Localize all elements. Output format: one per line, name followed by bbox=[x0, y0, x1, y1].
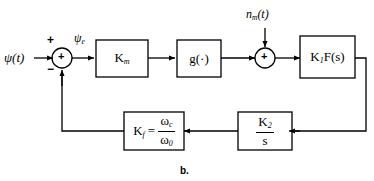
error-summer-interior-sign: + bbox=[58, 51, 64, 62]
error-signal-label: ψe bbox=[74, 32, 85, 46]
block-kf-label: Kf = ωc ω0 bbox=[124, 112, 184, 150]
block-diagram-figure: ψ(t) ψe + − + + nm(t) Km g(·) K1F(s) K2 … bbox=[0, 0, 374, 181]
block-km-label: Km bbox=[96, 40, 148, 77]
block-g-label: g(·) bbox=[177, 40, 221, 77]
diagram-lines-layer bbox=[0, 0, 374, 181]
block-k2s-label: K2 s bbox=[238, 112, 292, 150]
wire-kf-to-summer-path bbox=[62, 76, 124, 131]
summer-minus-sign: − bbox=[47, 63, 54, 75]
noise-signal-label: nm(t) bbox=[246, 8, 269, 22]
summer-plus-sign: + bbox=[47, 34, 54, 46]
input-signal-label: ψ(t) bbox=[4, 51, 24, 64]
figure-caption: b. bbox=[180, 166, 189, 176]
block-k1fs-label: K1F(s) bbox=[300, 36, 355, 78]
noise-summer-interior-sign: + bbox=[261, 51, 267, 62]
